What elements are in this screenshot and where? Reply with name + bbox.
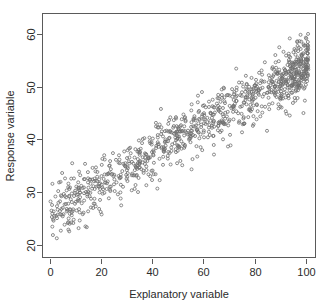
y-tick-label: 20 [25, 239, 37, 251]
chart-canvas: 020406080100 2030405060 Explanatory vari… [0, 0, 329, 306]
x-axis-title: Explanatory variable [129, 288, 229, 300]
y-tick-label: 30 [25, 186, 37, 198]
x-tick-label: 100 [297, 266, 315, 278]
y-tick-label: 60 [25, 28, 37, 40]
y-axis-title: Response variable [4, 90, 16, 181]
x-tick-label: 60 [197, 266, 209, 278]
scatter-plot-figure: 020406080100 2030405060 Explanatory vari… [0, 0, 329, 306]
x-tick-label: 80 [249, 266, 261, 278]
y-tick-label: 50 [25, 81, 37, 93]
x-tick-label: 20 [95, 266, 107, 278]
x-tick-label: 40 [146, 266, 158, 278]
x-tick-label: 0 [47, 266, 53, 278]
y-tick-label: 40 [25, 133, 37, 145]
